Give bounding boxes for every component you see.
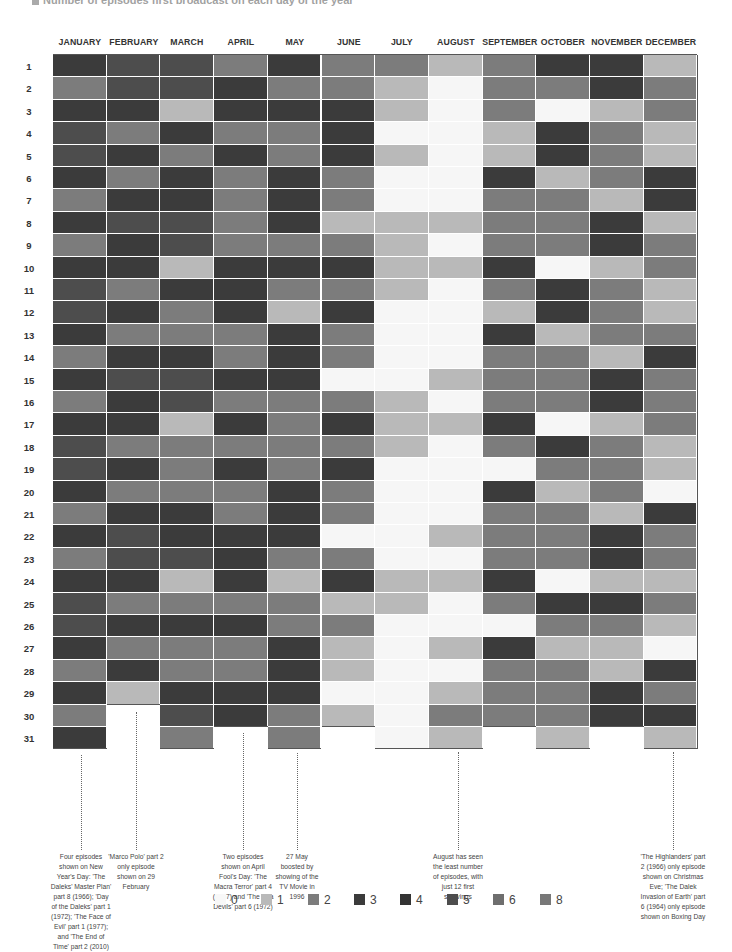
cell-january-26 [53,615,107,637]
cell-march-18 [160,436,214,458]
cell-november-2 [590,77,644,99]
cell-june-12 [322,301,376,323]
cell-october-4 [536,122,590,144]
legend-label: 3 [370,893,377,907]
cell-august-30 [429,705,483,727]
cell-february-29 [107,682,161,704]
cell-august-13 [429,324,483,346]
cell-may-18 [268,436,322,458]
cell-december-30 [644,705,698,727]
cell-august-16 [429,391,483,413]
cell-april-29 [214,682,268,704]
cell-april-6 [214,167,268,189]
cell-november-18 [590,436,644,458]
cell-february-18 [107,436,161,458]
cell-may-29 [268,682,322,704]
day-label-21: 21 [14,509,44,520]
cell-january-28 [53,660,107,682]
cell-march-2 [160,77,214,99]
cell-march-12 [160,301,214,323]
cell-october-16 [536,391,590,413]
cell-february-4 [107,122,161,144]
cell-february-10 [107,257,161,279]
cell-october-6 [536,167,590,189]
cell-march-19 [160,458,214,480]
cell-january-7 [53,189,107,211]
cell-march-5 [160,145,214,167]
cell-november-5 [590,145,644,167]
cell-january-27 [53,637,107,659]
cell-january-30 [53,705,107,727]
cell-january-18 [53,436,107,458]
annotation-leader-may [297,753,298,850]
column-bottom-edge [536,748,590,749]
cell-october-29 [536,682,590,704]
cell-february-1 [107,55,161,77]
cell-september-4 [483,122,537,144]
cell-september-15 [483,369,537,391]
cell-august-24 [429,570,483,592]
cell-august-28 [429,660,483,682]
cell-november-20 [590,481,644,503]
cell-december-14 [644,346,698,368]
cell-october-13 [536,324,590,346]
cell-march-20 [160,481,214,503]
cell-august-4 [429,122,483,144]
month-header-may: MAY [266,36,323,50]
cell-september-1 [483,55,537,77]
cell-january-2 [53,77,107,99]
cell-march-26 [160,615,214,637]
cell-september-7 [483,189,537,211]
cell-august-7 [429,189,483,211]
cell-december-24 [644,570,698,592]
cell-december-3 [644,100,698,122]
cell-july-27 [375,637,429,659]
day-label-17: 17 [14,419,44,430]
cell-july-20 [375,481,429,503]
cell-september-25 [483,593,537,615]
cell-january-8 [53,212,107,234]
cell-september-17 [483,413,537,435]
day-label-13: 13 [14,330,44,341]
cell-february-19 [107,458,161,480]
cell-november-14 [590,346,644,368]
cell-august-10 [429,257,483,279]
cell-december-18 [644,436,698,458]
cell-august-22 [429,525,483,547]
cell-may-7 [268,189,322,211]
cell-december-8 [644,212,698,234]
cell-june-24 [322,570,376,592]
legend-label: 8 [556,893,563,907]
cell-december-27 [644,637,698,659]
cell-november-15 [590,369,644,391]
cell-march-30 [160,705,214,727]
legend-swatch-icon [540,894,551,905]
day-label-6: 6 [14,173,44,184]
cell-march-13 [160,324,214,346]
cell-march-15 [160,369,214,391]
day-label-27: 27 [14,643,44,654]
cell-may-1 [268,55,322,77]
day-label-3: 3 [14,106,44,117]
cell-december-23 [644,548,698,570]
cell-april-12 [214,301,268,323]
cell-july-31 [375,727,429,749]
cell-january-16 [53,391,107,413]
day-label-4: 4 [14,128,44,139]
cell-march-31 [160,727,214,749]
cell-april-8 [214,212,268,234]
cell-july-18 [375,436,429,458]
cell-june-22 [322,525,376,547]
cell-september-12 [483,301,537,323]
cell-november-16 [590,391,644,413]
cell-july-6 [375,167,429,189]
cell-july-5 [375,145,429,167]
cell-july-30 [375,705,429,727]
cell-november-4 [590,122,644,144]
day-label-11: 11 [14,285,44,296]
cell-november-3 [590,100,644,122]
cell-may-24 [268,570,322,592]
cell-august-12 [429,301,483,323]
cell-may-12 [268,301,322,323]
day-label-28: 28 [14,666,44,677]
